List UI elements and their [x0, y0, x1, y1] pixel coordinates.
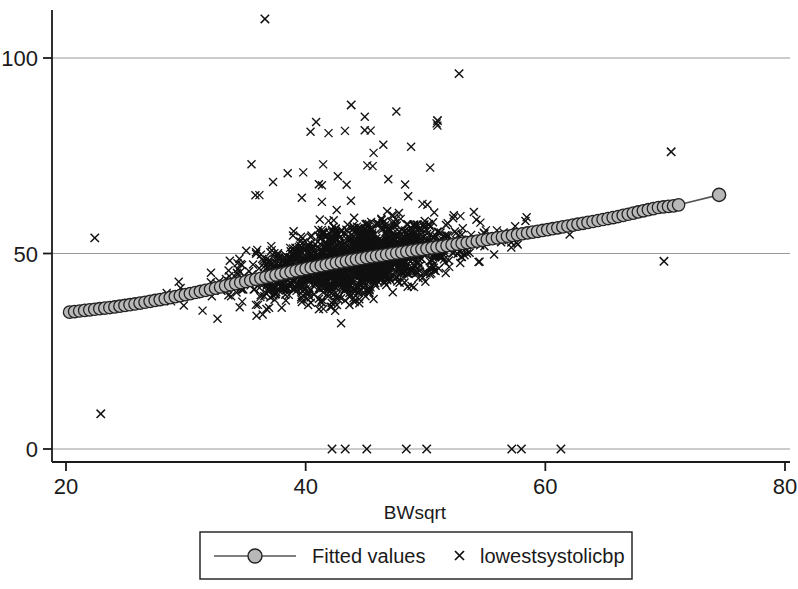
- chart-container: 05010020406080 BWsqrt Fitted values lowe…: [0, 0, 798, 589]
- legend-scatter-label: lowestsystolicbp: [480, 545, 625, 567]
- legend-fitted-label: Fitted values: [312, 545, 425, 567]
- y-tick-label-100: 100: [1, 46, 38, 71]
- fitted-marker-endpoint: [712, 188, 725, 201]
- legend-fitted-marker-icon: [248, 549, 262, 563]
- x-tick-label-20: 20: [54, 474, 78, 499]
- y-tick-label-0: 0: [26, 437, 38, 462]
- plot-background: [0, 0, 798, 589]
- x-tick-label-60: 60: [533, 474, 557, 499]
- fitted-marker: [672, 199, 684, 211]
- legend: Fitted values lowestsystolicbp: [200, 532, 632, 579]
- y-tick-label-50: 50: [14, 242, 38, 267]
- x-tick-label-40: 40: [293, 474, 317, 499]
- x-axis-title: BWsqrt: [384, 502, 447, 523]
- scatter-plot: 05010020406080 BWsqrt Fitted values lowe…: [0, 0, 798, 589]
- x-tick-label-80: 80: [773, 474, 797, 499]
